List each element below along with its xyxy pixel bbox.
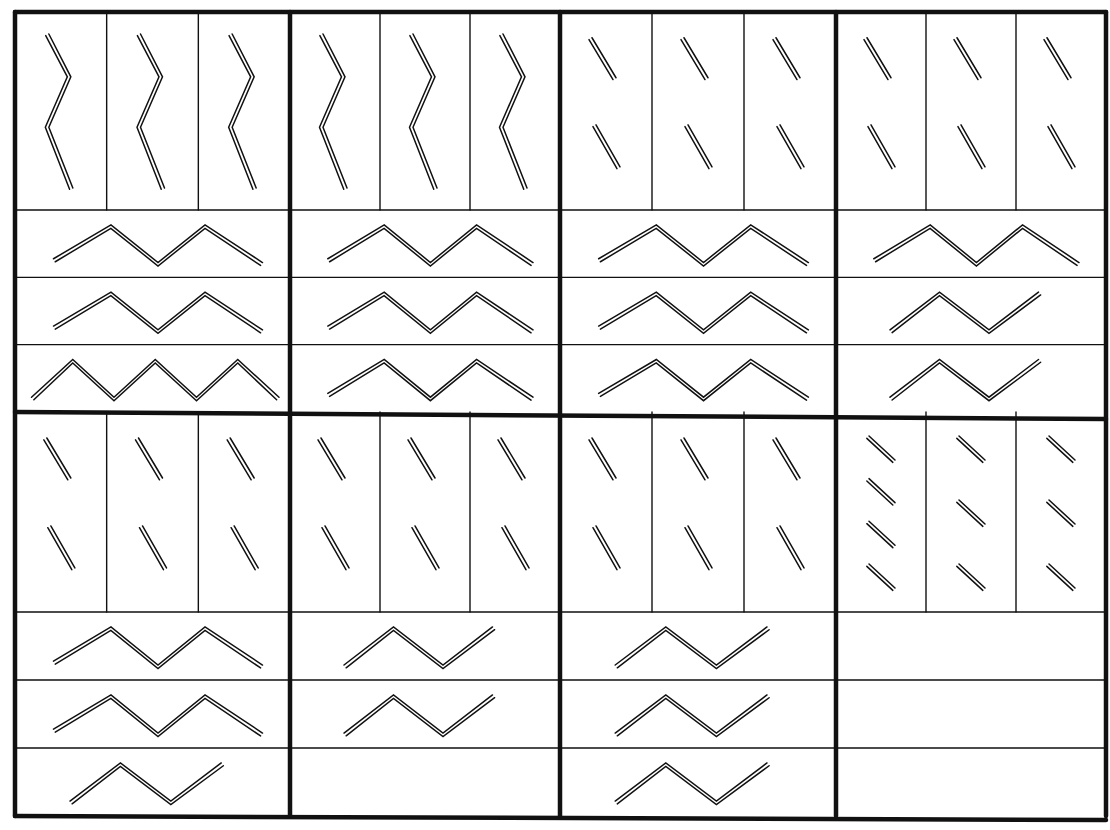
diagonal-double-stroke-icon — [685, 526, 712, 570]
diagonal-double-stroke-icon — [593, 526, 620, 570]
diagonal-double-stroke-icon-stroke-a — [325, 526, 349, 568]
top-cell-1 — [867, 436, 895, 590]
vertical-zigzag-icon-stroke-b — [229, 36, 253, 190]
horizontal-zigzag-icon-stroke-b — [617, 630, 769, 669]
panel-r1c3 — [589, 38, 808, 401]
top-cell-3 — [1044, 38, 1075, 169]
diagonal-double-stroke-icon-stroke-a — [505, 526, 529, 568]
short-diagonal-double-stroke-icon-stroke-b — [867, 481, 893, 505]
diagonal-double-stroke-icon-stroke-a — [596, 125, 620, 167]
diagonal-double-stroke-icon-stroke-b — [318, 440, 342, 480]
diagonal-double-stroke-icon-stroke-b — [958, 127, 982, 169]
diagonal-double-stroke-icon-stroke-b — [868, 127, 892, 169]
diagonal-double-stroke-icon — [322, 526, 349, 570]
diagonal-double-stroke-icon-stroke-b — [593, 127, 617, 169]
vertical-zigzag-icon-stroke-b — [137, 36, 161, 190]
strip-2 — [54, 292, 263, 333]
diagonal-double-stroke-icon-stroke-a — [139, 438, 163, 478]
short-diagonal-double-stroke-icon-stroke-b — [867, 524, 893, 548]
horizontal-zigzag-icon-stroke-b — [600, 296, 806, 334]
diagonal-double-stroke-icon-stroke-b — [685, 127, 709, 169]
short-diagonal-double-stroke-icon — [957, 436, 985, 462]
diagonal-double-stroke-icon — [227, 438, 254, 480]
horizontal-zigzag-icon-stroke-b — [55, 630, 260, 668]
top-cell-3 — [229, 34, 256, 189]
top-cell-2 — [957, 436, 985, 590]
diagonal-double-stroke-icon-stroke-b — [139, 528, 163, 570]
top-cell-1 — [589, 438, 620, 570]
diagonal-double-stroke-icon-stroke-a — [501, 438, 525, 478]
vertical-zigzag-icon — [229, 34, 256, 189]
diagonal-double-stroke-icon-stroke-b — [1048, 127, 1072, 169]
panel-r1c4 — [864, 38, 1079, 401]
horizontal-zigzag-icon — [874, 225, 1079, 266]
diagonal-double-stroke-icon-stroke-a — [596, 526, 620, 568]
diagonal-double-stroke-icon — [864, 38, 891, 80]
horizontal-zigzag-icon — [344, 695, 495, 737]
horizontal-zigzag-icon-stroke-b — [346, 630, 495, 669]
top-cell-2 — [954, 38, 985, 169]
short-diagonal-double-stroke-icon-stroke-b — [867, 566, 893, 590]
strip-1 — [54, 627, 263, 669]
diagonal-double-stroke-icon-stroke-a — [871, 125, 895, 167]
horizontal-zigzag-icon — [54, 292, 263, 333]
horizontal-zigzag-icon-stroke-a — [615, 763, 767, 801]
short-diagonal-double-stroke-icon-stroke-a — [959, 564, 985, 588]
diagonal-double-stroke-icon — [777, 125, 804, 169]
diagonal-double-stroke-icon-stroke-b — [408, 440, 432, 480]
top-cell-2 — [681, 38, 712, 169]
diagonal-double-stroke-icon-stroke-a — [776, 438, 800, 478]
diagram-canvas — [0, 0, 1110, 830]
top-cell-3 — [1047, 436, 1075, 590]
horizontal-zigzag-icon-stroke-a — [70, 763, 221, 801]
strip-2 — [344, 695, 495, 737]
horizontal-zigzag-icon-stroke-b — [617, 766, 769, 805]
diagonal-double-stroke-icon — [685, 125, 712, 169]
diagonal-double-stroke-icon-stroke-a — [143, 526, 167, 568]
horizontal-zigzag-icon-stroke-b — [330, 363, 531, 401]
diagonal-double-stroke-icon — [408, 438, 435, 480]
top-cell-2 — [137, 34, 164, 189]
short-diagonal-double-stroke-icon-stroke-a — [959, 436, 985, 460]
vertical-zigzag-icon — [137, 34, 164, 189]
diagonal-double-stroke-icon-stroke-b — [589, 440, 613, 480]
top-cell-2 — [135, 438, 166, 570]
short-diagonal-double-stroke-icon-stroke-b — [1047, 502, 1073, 526]
strip-3 — [32, 359, 280, 400]
top-cell-1 — [864, 38, 895, 169]
horizontal-zigzag-icon-stroke-b — [892, 295, 1041, 333]
strip-2 — [890, 292, 1041, 333]
horizontal-zigzag-icon-stroke-b — [600, 363, 806, 401]
strip-3 — [599, 359, 809, 400]
short-diagonal-double-stroke-icon-stroke-a — [1049, 436, 1075, 460]
diagonal-double-stroke-icon-stroke-b — [777, 127, 801, 169]
panel-r2c1 — [44, 438, 263, 805]
horizontal-zigzag-icon — [890, 292, 1041, 333]
diagonal-double-stroke-icon — [1048, 125, 1075, 169]
short-diagonal-double-stroke-icon — [1047, 564, 1075, 590]
diagonal-double-stroke-icon-stroke-a — [957, 38, 981, 78]
short-diagonal-double-stroke-icon-stroke-a — [959, 500, 985, 524]
diagonal-double-stroke-icon-stroke-a — [321, 438, 345, 478]
strip-1 — [344, 627, 495, 669]
diagonal-double-stroke-icon — [777, 526, 804, 570]
top-cell-2 — [410, 34, 437, 189]
strip-2 — [328, 292, 533, 333]
vertical-zigzag-icon-stroke-b — [500, 36, 524, 190]
horizontal-zigzag-icon — [328, 225, 533, 266]
diagonal-double-stroke-icon-stroke-b — [954, 40, 978, 80]
diagonal-double-stroke-icon-stroke-b — [593, 528, 617, 570]
horizontal-zigzag-icon — [890, 359, 1041, 400]
short-diagonal-double-stroke-icon-stroke-b — [957, 438, 983, 462]
diagonal-double-stroke-icon-stroke-a — [684, 438, 708, 478]
diagonal-double-stroke-icon-stroke-a — [867, 38, 891, 78]
top-cell-1 — [320, 34, 347, 189]
horizontal-zigzag-icon-stroke-a — [890, 359, 1039, 397]
short-diagonal-double-stroke-icon-stroke-a — [869, 564, 895, 588]
diagonal-double-stroke-icon-stroke-b — [773, 40, 797, 80]
panel-r2c4 — [867, 436, 1075, 590]
diagonal-double-stroke-icon — [681, 438, 708, 480]
horizontal-zigzag-icon — [54, 695, 263, 737]
diagonal-double-stroke-icon-stroke-a — [688, 125, 712, 167]
short-diagonal-double-stroke-icon-stroke-a — [869, 479, 895, 503]
